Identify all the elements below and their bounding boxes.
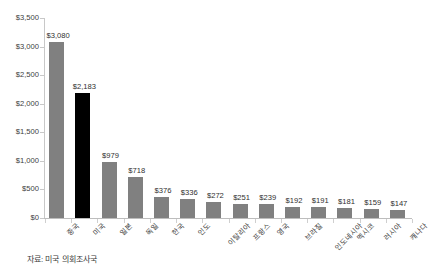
- bar: [364, 209, 379, 218]
- y-tick-mark: [40, 161, 44, 162]
- bar-group: $181: [334, 18, 358, 218]
- bar: [233, 204, 248, 218]
- category-label: 일본: [119, 222, 135, 238]
- y-tick-label: $3,500: [16, 14, 39, 22]
- x-tick-mark: [150, 219, 151, 223]
- bar-group: $979: [99, 18, 123, 218]
- y-tick-mark: [40, 104, 44, 105]
- bar: [311, 207, 326, 218]
- category-label: 프랑스: [252, 222, 273, 243]
- x-tick-mark: [307, 219, 308, 223]
- bar-group: $147: [387, 18, 411, 218]
- bar-value-label: $718: [128, 166, 145, 175]
- bar-value-label: $336: [181, 188, 198, 197]
- bar-group: $2,183: [72, 18, 96, 218]
- source-note: 자료: 미국 의회조사국: [27, 255, 97, 265]
- bar: [285, 207, 300, 218]
- y-tick-mark: [40, 75, 44, 76]
- category-label: 중국: [66, 222, 82, 238]
- x-tick-mark: [71, 219, 72, 223]
- y-tick-mark: [40, 218, 44, 219]
- bar: [75, 93, 90, 218]
- bar-value-label: $3,080: [46, 31, 69, 40]
- bar: [259, 204, 274, 218]
- bar: [102, 162, 117, 218]
- category-label: 인도: [197, 222, 213, 238]
- category-label: 영국: [276, 222, 292, 238]
- y-tick-label: $3,000: [16, 43, 39, 51]
- y-tick-mark: [40, 189, 44, 190]
- x-tick-mark: [97, 219, 98, 223]
- bar-value-label: $181: [338, 197, 355, 206]
- x-tick-mark: [45, 219, 46, 223]
- bar-value-label: $239: [259, 193, 276, 202]
- x-axis-category-labels: 중국미국일본독일한국인도이탈리아프랑스영국브라질인도네시아멕시코러시아캐나다: [45, 222, 412, 262]
- bar-group: $3,080: [46, 18, 70, 218]
- y-tick-label: $2,000: [16, 100, 39, 108]
- x-tick-mark: [412, 219, 413, 223]
- x-tick-mark: [255, 219, 256, 223]
- y-tick-label: $1,500: [16, 128, 39, 136]
- bar-group: $336: [177, 18, 201, 218]
- category-label: 한국: [171, 222, 187, 238]
- bar-value-label: $251: [233, 193, 250, 202]
- x-tick-mark: [281, 219, 282, 223]
- bar-group: $251: [230, 18, 254, 218]
- category-label: 캐나다: [409, 222, 430, 243]
- y-tick-label: $0: [31, 214, 39, 222]
- category-label: 브라질: [304, 222, 325, 243]
- y-tick-label: $1,000: [16, 157, 39, 165]
- bar: [49, 42, 64, 218]
- y-axis: $0$500$1,000$1,500$2,000$2,500$3,000$3,5…: [0, 0, 44, 230]
- bar-group: $376: [151, 18, 175, 218]
- plot-area: $3,080$2,183$979$718$376$336$272$251$239…: [45, 18, 412, 218]
- x-tick-mark: [176, 219, 177, 223]
- bar-group: $191: [308, 18, 332, 218]
- bar: [206, 202, 221, 218]
- bar-group: $192: [282, 18, 306, 218]
- x-tick-mark: [202, 219, 203, 223]
- category-label: 독일: [145, 222, 161, 238]
- y-tick-label: $2,500: [16, 71, 39, 79]
- bar-value-label: $191: [312, 196, 329, 205]
- x-tick-mark: [124, 219, 125, 223]
- y-tick-mark: [40, 47, 44, 48]
- bar-group: $239: [256, 18, 280, 218]
- bar: [128, 177, 143, 218]
- bar: [337, 208, 352, 218]
- category-label: 러시아: [383, 222, 404, 243]
- x-tick-mark: [386, 219, 387, 223]
- bar-group: $272: [203, 18, 227, 218]
- bar-value-label: $192: [286, 196, 303, 205]
- bar-value-label: $2,183: [73, 82, 96, 91]
- y-tick-label: $500: [22, 185, 39, 193]
- bar-value-label: $376: [155, 186, 172, 195]
- y-tick-mark: [40, 18, 44, 19]
- x-tick-mark: [229, 219, 230, 223]
- bar-value-label: $979: [102, 151, 119, 160]
- bar-value-label: $147: [390, 199, 407, 208]
- bar-group: $159: [361, 18, 385, 218]
- bar: [180, 199, 195, 218]
- category-label: 미국: [92, 222, 108, 238]
- x-tick-mark: [333, 219, 334, 223]
- bar-value-label: $272: [207, 191, 224, 200]
- y-tick-mark: [40, 132, 44, 133]
- category-label: 이탈리아: [228, 222, 253, 247]
- bar: [390, 210, 405, 218]
- bar-group: $718: [125, 18, 149, 218]
- x-tick-mark: [360, 219, 361, 223]
- bar: [154, 197, 169, 218]
- bar-value-label: $159: [364, 198, 381, 207]
